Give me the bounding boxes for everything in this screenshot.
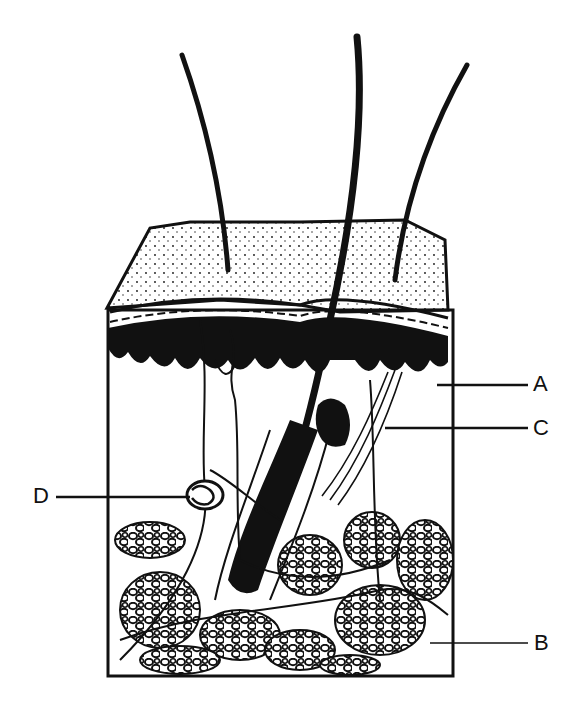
skin-cross-section-diagram <box>0 0 582 718</box>
label-b: B <box>534 632 549 654</box>
label-a: A <box>533 373 548 395</box>
adipose-lobules <box>115 512 453 675</box>
basal-layer <box>108 316 448 372</box>
label-c: C <box>533 417 549 439</box>
sensory-corpuscle <box>187 481 223 509</box>
epidermis <box>107 220 448 328</box>
label-d: D <box>33 485 49 507</box>
sebaceous-gland <box>316 399 350 447</box>
